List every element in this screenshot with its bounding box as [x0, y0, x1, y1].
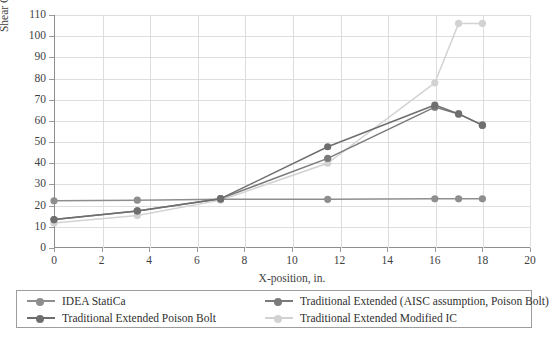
x-axis-tick [244, 248, 245, 252]
y-axis-tick-label: 30 [2, 178, 46, 190]
gridline-vertical [198, 15, 199, 248]
legend-label: Traditional Extended Poison Bolt [62, 312, 216, 324]
y-axis-tick-label: 50 [2, 136, 46, 148]
y-axis-tick [49, 184, 54, 185]
gridline-vertical [245, 15, 246, 248]
x-axis-tick-label: 4 [134, 255, 164, 267]
legend-column-left: IDEA StatiCa Traditional Extended Poison… [27, 293, 216, 327]
y-axis-tick-label: 60 [2, 115, 46, 127]
legend-item-traditional-extended-poison-bolt[interactable]: Traditional Extended Poison Bolt [27, 310, 216, 326]
plot-frame-right [530, 15, 531, 248]
x-axis-tick-label: 14 [372, 255, 402, 267]
x-axis-tick [149, 248, 150, 252]
legend-marker-icon [27, 295, 55, 307]
gridline-vertical [293, 15, 294, 248]
y-axis-tick [49, 163, 54, 164]
x-axis-tick [292, 248, 293, 252]
y-axis-tick [49, 57, 54, 58]
legend-column-right: Traditional Extended (AISC assumption, P… [265, 293, 549, 327]
x-axis-tick [54, 248, 55, 252]
x-axis-tick-label: 12 [325, 255, 355, 267]
y-axis-tick [49, 206, 54, 207]
x-axis-tick [102, 248, 103, 252]
legend-label: Traditional Extended Modified IC [300, 312, 457, 324]
y-axis-tick [49, 36, 54, 37]
legend-label: IDEA StatiCa [62, 295, 126, 307]
y-axis-tick-label: 20 [2, 200, 46, 212]
legend-marker-icon [27, 312, 55, 324]
x-axis-tick [435, 248, 436, 252]
y-axis-tick-label: 90 [2, 51, 46, 63]
x-axis-tick-label: 18 [467, 255, 497, 267]
y-axis-tick-label: 100 [2, 30, 46, 42]
gridline-vertical [436, 15, 437, 248]
y-axis-tick [49, 100, 54, 101]
y-axis-tick-label: 70 [2, 94, 46, 106]
x-axis-tick-label: 20 [515, 255, 545, 267]
x-axis-tick [340, 248, 341, 252]
x-axis-tick-label: 8 [229, 255, 259, 267]
plot-area [54, 15, 530, 248]
x-axis-tick-label: 0 [39, 255, 69, 267]
legend-item-idea-statica[interactable]: IDEA StatiCa [27, 293, 216, 309]
legend-marker-icon [265, 295, 293, 307]
x-axis-tick-label: 16 [420, 255, 450, 267]
x-axis-tick-label: 6 [182, 255, 212, 267]
y-axis-tick-label: 40 [2, 157, 46, 169]
x-axis-tick [197, 248, 198, 252]
x-axis-tick-label: 10 [277, 255, 307, 267]
legend-item-traditional-extended-aisc[interactable]: Traditional Extended (AISC assumption, P… [265, 293, 549, 309]
x-axis-tick [387, 248, 388, 252]
y-axis-tick [49, 142, 54, 143]
y-axis-tick-label: 0 [2, 242, 46, 254]
y-axis-tick [49, 15, 54, 16]
gridline-vertical [483, 15, 484, 248]
legend-label: Traditional Extended (AISC assumption, P… [300, 295, 549, 307]
x-axis-tick [530, 248, 531, 252]
y-axis-tick [49, 79, 54, 80]
legend-item-traditional-extended-modified-ic[interactable]: Traditional Extended Modified IC [265, 310, 549, 326]
legend-marker-icon [265, 312, 293, 324]
y-axis-tick-label: 110 [2, 9, 46, 21]
y-axis-tick [49, 121, 54, 122]
y-axis-tick-label: 10 [2, 221, 46, 233]
y-axis-tick [49, 227, 54, 228]
x-axis-title: X-position, in. [54, 272, 530, 284]
gridline-vertical [150, 15, 151, 248]
chart-legend: IDEA StatiCa Traditional Extended Poison… [16, 290, 532, 328]
y-axis-tick-label: 80 [2, 73, 46, 85]
x-axis-tick [482, 248, 483, 252]
x-axis-tick-label: 2 [87, 255, 117, 267]
gridline-vertical [103, 15, 104, 248]
gridline-vertical [388, 15, 389, 248]
gridline-vertical [341, 15, 342, 248]
